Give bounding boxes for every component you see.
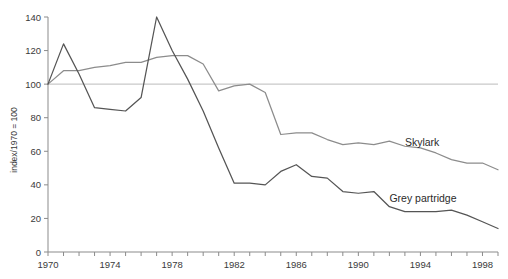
y-tick-label: 80 [30,112,41,123]
x-axis: 19701974197819821986199019941998 [37,252,498,270]
y-tick-label: 0 [36,247,41,258]
y-axis-title: index/1970 = 100 [9,107,19,173]
series-label-grey-partridge: Grey partridge [389,192,456,204]
x-tick-label: 1994 [410,259,431,270]
x-tick-label: 1978 [162,259,183,270]
y-tick-label: 60 [30,146,41,157]
y-tick-label: 140 [25,12,41,23]
y-tick-label: 20 [30,213,41,224]
series-line-skylark [48,56,498,170]
x-tick-label: 1998 [472,259,493,270]
x-tick-label: 1990 [348,259,369,270]
x-tick-label: 1974 [99,259,120,270]
series-labels: SkylarkGrey partridge [389,136,456,203]
y-tick-label: 120 [25,45,41,56]
y-tick-label: 100 [25,79,41,90]
y-axis: 020406080100120140 [25,12,48,258]
chart-canvas: 020406080100120140 197019741978198219861… [0,0,508,279]
x-tick-label: 1970 [37,259,58,270]
x-tick-label: 1982 [224,259,245,270]
y-tick-label: 40 [30,179,41,190]
bird-population-index-chart: 020406080100120140 197019741978198219861… [0,0,508,279]
series-label-skylark: Skylark [405,136,440,148]
x-tick-label: 1986 [286,259,307,270]
